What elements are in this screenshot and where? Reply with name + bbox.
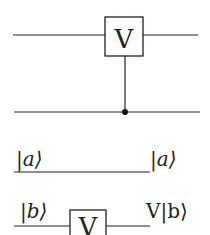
v-gate-label: V [114,24,135,54]
ket-a-input: |a⟩ [16,147,42,172]
ket-a-output: |a⟩ [150,147,176,172]
wire-b-circuit: |b⟩ V V|b⟩ [14,199,188,235]
control-dot-icon [122,109,128,115]
quantum-circuit-diagram: V |a⟩ |a⟩ |b⟩ V V|b⟩ [0,0,210,235]
controlled-v-circuit: V [13,17,200,115]
ket-b-input: |b⟩ [20,199,47,224]
ket-b-output: V|b⟩ [145,199,188,224]
wire-a-circuit: |a⟩ |a⟩ [14,147,176,172]
v-gate-label-b: V [78,212,99,235]
